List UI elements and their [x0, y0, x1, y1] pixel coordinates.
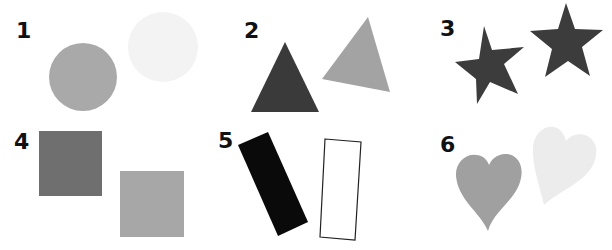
rectangle-outline [320, 139, 361, 240]
star-right [530, 3, 603, 77]
square-dark [39, 131, 102, 196]
star-left [455, 26, 524, 104]
heart-gray [456, 154, 522, 231]
square-light [120, 171, 184, 237]
shapes-canvas [0, 0, 612, 250]
heart-light [533, 127, 596, 205]
circle-light [128, 12, 198, 82]
rectangle-black [238, 132, 308, 236]
triangle-gray [322, 17, 390, 92]
triangle-dark [251, 42, 319, 112]
circle-gray [49, 43, 117, 111]
